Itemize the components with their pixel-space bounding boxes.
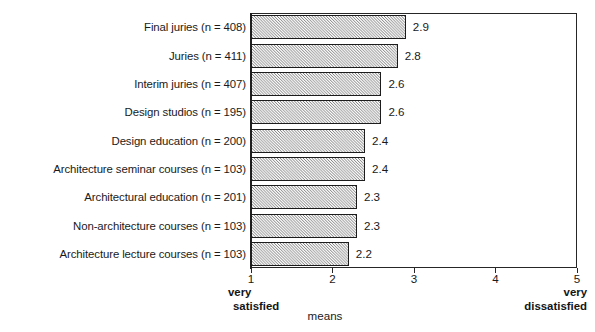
category-label: Final juries (n = 408) xyxy=(0,21,246,33)
bar xyxy=(251,15,406,39)
bar xyxy=(251,157,365,181)
category-label: Design studios (n = 195) xyxy=(0,106,246,118)
bar xyxy=(251,44,398,68)
category-label: Juries (n = 411) xyxy=(0,50,246,62)
x-axis-tick-label: 4 xyxy=(481,272,511,285)
bar-value-label: 2.3 xyxy=(364,191,380,203)
x-axis-tick-label: 5 xyxy=(562,272,592,285)
bar xyxy=(251,185,357,209)
bar-value-label: 2.2 xyxy=(356,248,372,260)
category-label-column: Final juries (n = 408)Juries (n = 411)In… xyxy=(0,13,246,268)
bar-value-label: 2.6 xyxy=(388,78,404,90)
bar-value-label: 2.4 xyxy=(372,163,388,175)
bar xyxy=(251,242,349,266)
bar xyxy=(251,129,365,153)
category-label: Architectural education (n = 201) xyxy=(0,191,246,203)
x-axis-title: means xyxy=(0,309,595,322)
bar-value-label: 2.4 xyxy=(372,135,388,147)
scale-anchor-low-line1: very xyxy=(228,286,279,300)
category-label: Non-architecture courses (n = 103) xyxy=(0,220,246,232)
bar xyxy=(251,100,381,124)
bar xyxy=(251,72,381,96)
x-axis-tick-label: 1 xyxy=(236,272,266,285)
bar-value-label: 2.3 xyxy=(364,220,380,232)
satisfaction-means-bar-chart: Final juries (n = 408)Juries (n = 411)In… xyxy=(0,0,595,332)
x-axis-tick-label: 2 xyxy=(318,272,348,285)
scale-anchor-high-line1: very xyxy=(524,286,587,300)
bar-value-label: 2.8 xyxy=(405,50,421,62)
bar-value-label: 2.6 xyxy=(388,106,404,118)
category-label: Architecture seminar courses (n = 103) xyxy=(0,163,246,175)
bar xyxy=(251,214,357,238)
x-axis-tick-label: 3 xyxy=(399,272,429,285)
category-label: Interim juries (n = 407) xyxy=(0,78,246,90)
bar-value-label: 2.9 xyxy=(413,21,429,33)
category-label: Architecture lecture courses (n = 103) xyxy=(0,248,246,260)
category-label: Design education (n = 200) xyxy=(0,135,246,147)
